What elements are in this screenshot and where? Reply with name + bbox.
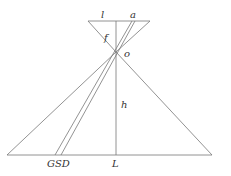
bottom-left-ray	[7, 52, 116, 155]
top-right-ray	[116, 21, 150, 52]
label-f: f	[103, 32, 110, 43]
label-a: a	[130, 9, 136, 20]
label-l: l	[101, 9, 104, 20]
label-o: o	[124, 48, 130, 59]
label-gsd: GSD	[47, 158, 70, 169]
pixel-ray-1	[55, 21, 132, 155]
label-h: h	[121, 99, 127, 110]
pixel-ray-2	[61, 21, 135, 155]
label-L: L	[111, 158, 119, 169]
gsd-diagram: l a f o h GSD L	[0, 0, 231, 176]
top-left-ray	[88, 21, 116, 52]
bottom-right-ray	[116, 52, 212, 155]
